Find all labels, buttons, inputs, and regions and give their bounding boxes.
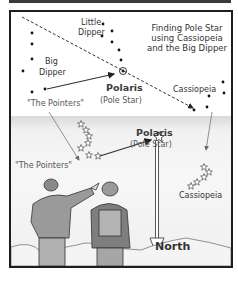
label-pointers-top: "The Pointers" xyxy=(27,100,84,108)
label-north: North xyxy=(155,241,190,252)
big-dipper-stars xyxy=(22,32,47,94)
title-line-2: using Cassiopeia xyxy=(142,33,232,43)
label-cassiopeia-top: Cassiopeia xyxy=(173,86,216,94)
diagram-title: Finding Pole Star using Cassiopeia and t… xyxy=(142,23,232,53)
title-line-1: Finding Pole Star xyxy=(142,23,232,33)
label-polaris-bottom: Polaris xyxy=(136,128,173,138)
top-border-strip xyxy=(9,0,231,3)
label-big-dipper-1: Big xyxy=(45,58,58,66)
north-arrow xyxy=(150,141,164,256)
label-pole-star-top: (Pole Star) xyxy=(100,97,142,105)
label-little-dipper-2: Dipper xyxy=(78,29,105,37)
label-pointers-bottom: "The Pointers" xyxy=(15,162,72,170)
label-little-dipper-1: Little xyxy=(81,19,101,27)
label-pole-star-bottom: (Pole Star) xyxy=(130,141,172,149)
big-dipper-outline-stars xyxy=(78,121,102,160)
label-big-dipper-2: Dipper xyxy=(39,69,66,77)
illustration-frame: Finding Pole Star using Cassiopeia and t… xyxy=(9,10,233,268)
title-line-3: and the Big Dipper xyxy=(142,43,232,53)
label-polaris-top: Polaris xyxy=(106,83,143,93)
cassiopeia-outline-stars xyxy=(188,164,213,190)
label-cassiopeia-bottom: Cassiopeia xyxy=(179,192,222,200)
